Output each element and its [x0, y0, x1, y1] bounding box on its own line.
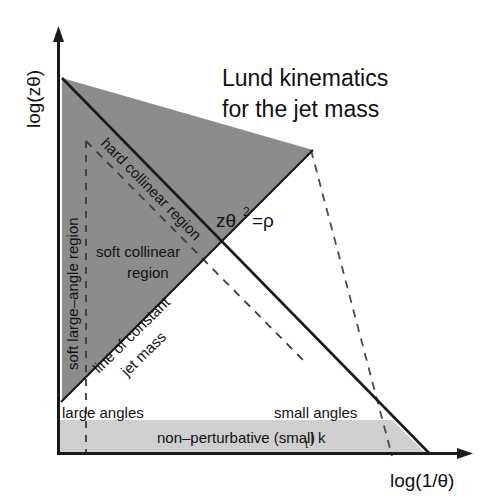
equation-base: zθ — [216, 210, 236, 231]
label-large-angles: large angles — [62, 404, 144, 421]
y-axis-label: log(zθ) — [23, 70, 44, 128]
label-small-angles: small angles — [274, 404, 357, 421]
label-non-perturbative-text: non–perturbative (small k — [157, 429, 326, 446]
label-soft-collinear-line2: region — [127, 264, 169, 281]
label-soft-collinear-line1: soft collinear — [96, 243, 180, 260]
lund-kinematics-diagram: log(zθ) log(1/θ) Lund kinematics for the… — [0, 0, 498, 504]
label-soft-large-angle-region: soft large–angle region — [64, 217, 81, 370]
equation-rhs: =ρ — [252, 210, 274, 231]
figure-title-line2: for the jet mass — [222, 96, 379, 122]
x-axis-label: log(1/θ) — [390, 470, 454, 491]
label-non-perturbative-paren: ) — [310, 429, 315, 446]
figure-canvas: log(zθ) log(1/θ) Lund kinematics for the… — [0, 0, 498, 504]
equation-exponent: 2 — [243, 205, 250, 219]
y-axis-arrowhead — [53, 26, 64, 42]
label-non-perturbative-subscript: t — [305, 438, 308, 450]
x-axis-arrowhead — [457, 448, 473, 459]
figure-title-line1: Lund kinematics — [222, 65, 388, 91]
